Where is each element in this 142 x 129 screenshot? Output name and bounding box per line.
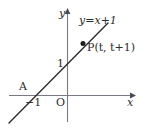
point-p-marker <box>81 41 86 46</box>
y-intercept-tick-label: 1 <box>57 58 64 69</box>
point-a-label: A <box>19 81 27 92</box>
x-axis-label: x <box>127 97 133 108</box>
y-axis-arrowhead <box>65 8 71 14</box>
y-axis-label: y <box>59 8 65 19</box>
point-p-label: P(t, t+1) <box>87 42 135 53</box>
origin-label: O <box>56 97 65 108</box>
line-equation-label: y=x+1 <box>79 15 117 26</box>
coordinate-plane-figure: y x y=x+1 P(t, t+1) 1 −1 A O <box>0 0 142 129</box>
figure-canvas <box>0 0 142 129</box>
x-intercept-tick-label: −1 <box>25 97 41 108</box>
